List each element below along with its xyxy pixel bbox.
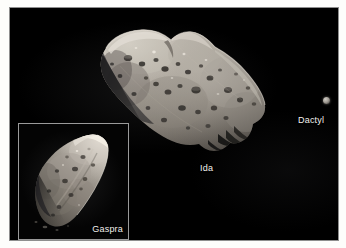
gaspra-surface [23,127,125,237]
gaspra-inset-panel: Gaspra [18,123,129,240]
gaspra-body-shape [23,127,125,237]
label-ida: Ida [200,163,213,174]
asteroid-figure: Dactyl Ida [0,0,346,248]
moon-dactyl [323,97,330,104]
label-gaspra: Gaspra [92,224,123,235]
space-background: Dactyl Ida [9,7,339,241]
label-dactyl: Dactyl [298,115,324,126]
